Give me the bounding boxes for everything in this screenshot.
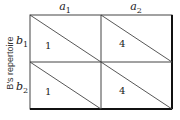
cell-diagonal-b1-a2 [101,15,172,62]
cell-diagonal-b2-a1 [30,62,101,109]
cell-b1-a1-value: 1 [45,40,51,51]
column-label-a1: a1 [50,0,80,15]
cell-b2-a1-value: 1 [45,86,51,97]
column-label-a2: a2 [121,0,151,15]
row-label-b1: b1 [16,34,28,49]
cell-diagonal-b2-a2 [101,62,172,109]
cell-b1-a2-value: 4 [119,38,125,49]
row-label-b2: b2 [16,80,28,95]
row-axis-title: B's repertoire [5,23,15,103]
cell-diagonal-b1-a1 [30,15,101,62]
cell-b2-a2-value: 4 [119,85,125,96]
payoff-grid [0,0,180,120]
